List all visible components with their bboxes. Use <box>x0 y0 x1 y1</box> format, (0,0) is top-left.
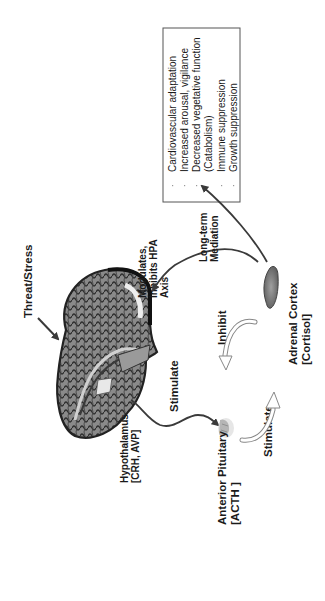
svg-text:Stimulate: Stimulate <box>168 360 180 412</box>
svg-text:[Cortisol]: [Cortisol] <box>300 314 312 365</box>
svg-text:Adrenal Cortex: Adrenal Cortex <box>287 282 299 365</box>
effect-item: Increased arousal, vigilance <box>179 48 190 172</box>
effects-box: Cardiovascular adaptation Increased arou… <box>163 28 240 202</box>
effect-item: Decreased vegetative function <box>191 37 202 172</box>
svg-text:Anterior Pituitary: Anterior Pituitary <box>216 430 228 525</box>
threat-stress-label: Threat/Stress <box>22 244 34 318</box>
threat-arrow <box>38 318 58 339</box>
effect-item: Immune suppression <box>216 79 227 172</box>
svg-text:[ACTH ]: [ACTH ] <box>229 482 241 525</box>
stimulate-label-upper: Stimulate <box>168 360 180 412</box>
long-term-mediation-label: Long-term Mediation <box>198 212 220 262</box>
adrenal-cortex-label: Adrenal Cortex [Cortisol] <box>287 282 312 365</box>
hpa-axis-diagram: Cardiovascular adaptation Increased arou… <box>0 0 325 601</box>
svg-text:Threat/Stress: Threat/Stress <box>22 244 34 318</box>
effect-item: (Catabolism) <box>203 115 214 172</box>
anterior-pituitary-label: Anterior Pituitary [ACTH ] <box>216 430 241 525</box>
svg-text:Modulates,: Modulates, <box>137 246 148 298</box>
svg-text:Mediation: Mediation <box>209 215 220 262</box>
stimulate-arrow-lower <box>242 392 280 440</box>
svg-text:Hypothalamus: Hypothalamus <box>119 414 130 483</box>
adrenal-gland-illustration <box>264 266 278 308</box>
svg-text:Long-term: Long-term <box>198 212 209 262</box>
hypothalamus-label: Hypothalamus [CRH, AVP] <box>119 414 141 483</box>
svg-text:[CRH, AVP]: [CRH, AVP] <box>130 430 141 483</box>
effect-item: Growth suppression <box>228 83 239 172</box>
effect-item: Cardiovascular adaptation <box>167 56 178 172</box>
